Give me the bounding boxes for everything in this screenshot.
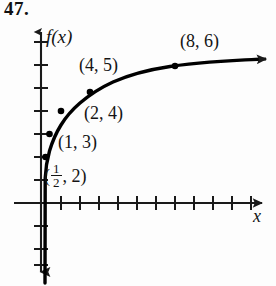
x-axis	[14, 196, 262, 210]
data-point-half-2	[42, 154, 49, 161]
fraction-numerator: 1	[51, 162, 62, 175]
x-axis-label: x	[253, 206, 261, 227]
point-label-1-3: (1, 3)	[58, 133, 97, 151]
fraction-one-half: 12	[51, 162, 62, 190]
curve-arrow-right	[252, 59, 266, 60]
point-label-4-5: (4, 5)	[79, 56, 118, 74]
graph-canvas	[0, 0, 276, 286]
point-label-2-4: (2, 4)	[84, 104, 123, 122]
y-axis-label: f(x)	[46, 26, 72, 48]
data-point-4-5	[87, 89, 94, 96]
fraction-denominator: 2	[51, 176, 62, 189]
label-tail: , 2)	[63, 166, 87, 186]
data-point-8-6	[172, 63, 179, 70]
data-point-1-3	[46, 131, 53, 138]
figure-page: 47.	[0, 0, 276, 286]
data-point-2-4	[58, 108, 65, 115]
point-label-half-2: (12, 2)	[44, 162, 87, 190]
paren-open: (	[44, 166, 50, 186]
point-label-8-6: (8, 6)	[180, 32, 219, 50]
